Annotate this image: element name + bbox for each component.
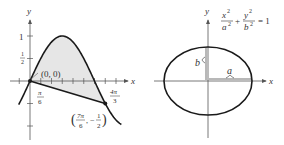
eq-y-den: b: [244, 22, 249, 32]
right-x-label: x: [268, 76, 273, 86]
b-label: b: [195, 57, 200, 68]
paren-open: (: [71, 112, 76, 128]
x-tick-4pi3-num: 4π: [110, 88, 118, 96]
ellipse-equation: x 2 a 2 + y 2 b 2 = 1: [221, 8, 270, 32]
x-tick-4pi3-den: 3: [113, 97, 117, 105]
paren-close: ): [102, 112, 107, 128]
point-comma: ,: [86, 116, 88, 125]
eq-x-den: a: [222, 22, 227, 32]
point-y-num: 1: [97, 112, 101, 120]
eq-equals: = 1: [258, 16, 270, 26]
a-label: a: [227, 65, 232, 76]
point-x-den: 6: [79, 122, 83, 130]
point-origin: [28, 79, 32, 83]
right-figure: b a y x x 2 a 2 + y 2 b 2 = 1: [154, 6, 273, 138]
point-x-num: 7π: [77, 112, 85, 120]
point-y-den: 2: [97, 122, 101, 130]
figure-canvas: y x 1 1 2 (0, 0) π 6 4π 3 ( 7π 6 , − 1 2…: [0, 0, 284, 145]
y-tick-label-half-num: 1: [21, 51, 24, 57]
x-tick-pi6-den: 6: [38, 98, 42, 106]
left-x-label: x: [130, 76, 135, 86]
eq-plus: +: [235, 16, 240, 26]
x-tick-pi6-num: π: [38, 89, 42, 97]
eq-y-num: y: [243, 10, 248, 20]
right-y-label: y: [204, 6, 209, 16]
eq-y-exp: 2: [249, 8, 252, 14]
point-7pi6-label: ( 7π 6 , − 1 2 ): [71, 112, 107, 130]
point-y-sign: −: [90, 116, 95, 125]
point-origin-label: (0, 0): [41, 69, 61, 79]
eq-x-exp: 2: [227, 8, 230, 14]
eq-y-den-exp: 2: [250, 21, 253, 27]
eq-x-den-exp: 2: [228, 21, 231, 27]
y-tick-label-1: 1: [19, 32, 24, 42]
left-figure: y x 1 1 2 (0, 0) π 6 4π 3 ( 7π 6 , − 1 2…: [10, 6, 135, 140]
left-y-label: y: [26, 6, 31, 16]
point-7pi-6: [103, 102, 107, 106]
b-brace: [202, 57, 205, 63]
eq-x-num: x: [221, 10, 226, 20]
y-tick-label-half-den: 2: [21, 59, 24, 65]
